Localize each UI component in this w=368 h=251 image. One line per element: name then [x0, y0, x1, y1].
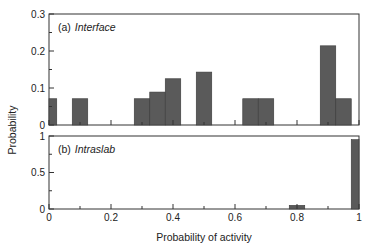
y-axis-title: Probability: [6, 105, 18, 155]
bar: [258, 99, 274, 125]
bar: [196, 72, 212, 125]
x-tick-label: 0.2: [104, 212, 118, 223]
bar: [336, 99, 352, 125]
panel-b-label: (b)Intraslab: [58, 143, 115, 155]
bar: [320, 46, 336, 125]
x-tick-label: 0.4: [166, 212, 180, 223]
panel-a-label: (a)Interface: [58, 21, 116, 33]
y-tick-label: 0: [39, 204, 45, 215]
bar: [165, 79, 181, 125]
panel-b-bars: [289, 140, 359, 209]
y-tick-label: 0: [39, 120, 45, 131]
y-tick-label: 0.5: [31, 167, 45, 178]
y-tick-label: 0.1: [31, 83, 45, 94]
x-tick-label: 1: [356, 212, 362, 223]
bar: [72, 99, 88, 125]
y-tick-label: 1: [39, 131, 45, 142]
x-tick-label: 0: [46, 212, 52, 223]
x-tick-label: 0.8: [290, 212, 304, 223]
bar: [243, 99, 259, 125]
chart-figure: 00.10.20.3 (a)Interface 00.5100.20.40.60…: [0, 0, 368, 251]
bar: [49, 99, 57, 125]
panel-a-bars: [49, 46, 351, 125]
x-axis-title: Probability of activity: [156, 231, 252, 243]
y-tick-label: 0.2: [31, 46, 45, 57]
bar: [150, 92, 166, 125]
bar: [351, 140, 359, 209]
bar: [134, 99, 150, 125]
y-tick-label: 0.3: [31, 9, 45, 20]
x-tick-label: 0.6: [228, 212, 242, 223]
